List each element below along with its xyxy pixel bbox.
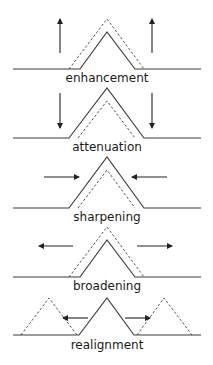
panel-label: sharpening <box>73 210 140 224</box>
solid-peak-with-baseline <box>13 88 201 138</box>
dashed-peak-right <box>137 298 192 335</box>
dashed-peak <box>69 19 144 69</box>
panel-broadening: broadening <box>13 227 201 293</box>
panel-label: attenuation <box>72 140 142 154</box>
dashed-peak <box>69 227 144 277</box>
solid-peak-with-baseline <box>13 298 201 335</box>
dashed-peak <box>78 101 135 138</box>
panel-enhancement: enhancement <box>13 19 201 85</box>
panel-realignment: realignment <box>13 298 201 352</box>
dashed-peak <box>78 170 135 208</box>
solid-peak-with-baseline <box>13 32 201 69</box>
panel-label: broadening <box>73 279 141 293</box>
panel-sharpening: sharpening <box>13 157 201 224</box>
peak-transformations-diagram: enhancement attenuation sharpening broad… <box>0 0 213 365</box>
dashed-peak-left <box>21 298 77 335</box>
panel-attenuation: attenuation <box>13 88 201 154</box>
panel-label: enhancement <box>66 71 149 85</box>
solid-peak-with-baseline <box>13 157 201 208</box>
panel-label: realignment <box>71 338 144 352</box>
